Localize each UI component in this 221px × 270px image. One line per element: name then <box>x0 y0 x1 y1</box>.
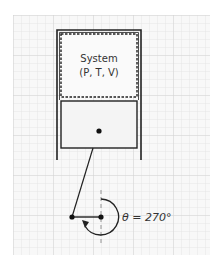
system-title: System <box>80 53 117 64</box>
piston <box>61 101 137 148</box>
angle-label: θ = 270° <box>122 211 171 224</box>
system-boundary <box>61 34 137 97</box>
piston-pin <box>96 128 101 133</box>
piston-cylinder-diagram: System (P, T, V) θ = 270° <box>0 0 221 270</box>
crank-center <box>98 214 103 219</box>
system-properties: (P, T, V) <box>79 67 119 78</box>
crank-pin <box>69 214 74 219</box>
